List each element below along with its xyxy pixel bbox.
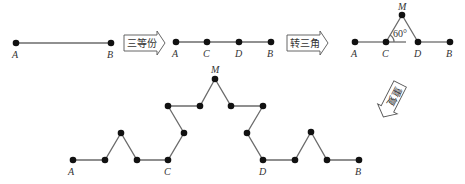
- label-m: M: [210, 64, 220, 75]
- point-b: [108, 40, 115, 47]
- stage-3-figure: M 60° A C D B: [350, 1, 453, 59]
- arrow-rotate-label: 转三角: [290, 37, 320, 49]
- label-d: D: [258, 166, 267, 177]
- arrow-repeat: 重复: [374, 79, 410, 122]
- koch-diagram: A B 三等份 A C D B 转三角 M 60° A C: [0, 0, 465, 184]
- stage-4-koch-curve: M A C D B: [67, 64, 362, 177]
- label-c: C: [382, 48, 389, 59]
- stage-1-segment: A B: [11, 40, 114, 60]
- stage-2-segment: A C D B: [171, 39, 274, 59]
- label-c: C: [164, 166, 171, 177]
- label-d: D: [413, 48, 422, 59]
- label-c: C: [203, 48, 210, 59]
- arrow-rotate-triangle: 转三角: [287, 31, 328, 55]
- angle-label: 60°: [393, 28, 407, 39]
- arrow-trisect-label: 三等份: [127, 37, 157, 49]
- label-a: A: [171, 48, 179, 59]
- label-b: B: [107, 49, 113, 60]
- point-a: [13, 40, 20, 47]
- label-a: A: [67, 166, 75, 177]
- label-m: M: [397, 1, 407, 12]
- arrow-trisect: 三等份: [124, 31, 165, 55]
- label-b: B: [355, 166, 361, 177]
- label-d: D: [234, 48, 243, 59]
- label-b: B: [267, 48, 273, 59]
- label-b: B: [446, 48, 452, 59]
- label-a: A: [11, 49, 19, 60]
- label-a: A: [350, 48, 358, 59]
